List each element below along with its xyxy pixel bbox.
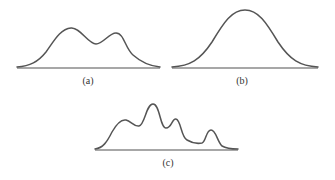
figure-label-a: (a) — [82, 75, 93, 87]
multimodal-curve — [95, 104, 238, 149]
figure-a: (a) — [17, 28, 160, 87]
distribution-diagram: (a) (b) (c) — [0, 0, 335, 180]
figure-label-c: (c) — [162, 157, 173, 169]
figure-b: (b) — [172, 10, 318, 87]
bell-curve — [172, 10, 318, 67]
figure-label-b: (b) — [236, 75, 248, 87]
bimodal-curve — [17, 28, 160, 67]
figure-c: (c) — [95, 104, 238, 169]
